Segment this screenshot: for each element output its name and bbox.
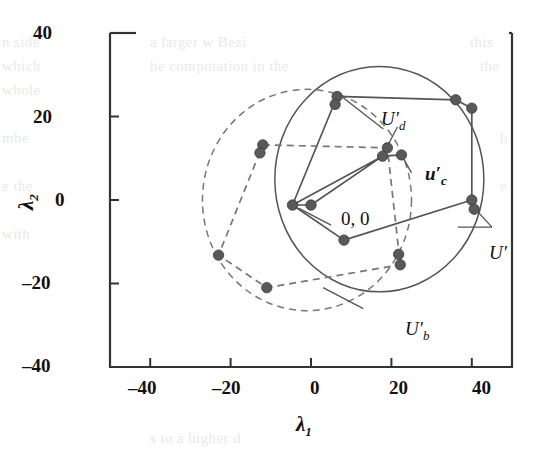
label-uc-sub: c [441, 173, 447, 188]
label-Ud-letter: U [381, 108, 395, 129]
x-axis-title: λ1 [296, 412, 312, 440]
y-tick-20: 20 [33, 106, 52, 128]
label-Ud-sub: d [399, 118, 406, 133]
label-U-letter: U [489, 242, 503, 263]
y-axis-title-text: λ [14, 201, 38, 210]
y-tick-neg20: –20 [22, 272, 51, 294]
data-point-16 [213, 250, 223, 260]
x-tick-neg40: –40 [128, 377, 157, 399]
label-uc-letter: u [425, 163, 436, 184]
figure-root: n sidewhichwholembee thewitha larger w B… [0, 0, 547, 461]
data-point-12 [467, 195, 477, 205]
data-point-10 [306, 200, 316, 210]
y-axis-title: λ2 [14, 188, 42, 216]
data-point-15 [395, 260, 405, 270]
y-axis-title-sub: 2 [26, 194, 41, 201]
label-Ub: U′b [405, 318, 429, 344]
data-point-13 [469, 204, 479, 214]
data-point-7 [377, 151, 387, 161]
label-uc: u′c [425, 163, 447, 189]
label-Ub-sub: b [423, 328, 430, 343]
series-2 [293, 155, 402, 205]
data-point-17 [262, 282, 272, 292]
data-point-3 [467, 103, 477, 113]
data-point-8 [396, 150, 406, 160]
label-origin: 0, 0 [341, 208, 370, 230]
x-tick-0: 0 [310, 377, 320, 399]
data-point-9 [287, 200, 297, 210]
y-tick-0: 0 [55, 189, 65, 211]
label-U-prime: ′ [503, 242, 507, 263]
leader-Ub [323, 288, 363, 309]
x-tick-40: 40 [472, 377, 491, 399]
y-tick-40: 40 [33, 22, 52, 44]
data-point-11 [339, 235, 349, 245]
x-tick-neg20: –20 [212, 377, 241, 399]
data-point-2 [451, 95, 461, 105]
y-tick-neg40: –40 [22, 355, 51, 377]
x-tick-20: 20 [389, 377, 408, 399]
data-point-14 [393, 249, 403, 259]
label-Ub-letter: U [405, 318, 419, 339]
data-point-1 [330, 99, 340, 109]
leader-Ud2 [343, 98, 383, 129]
scatter-plot-canvas [0, 0, 547, 461]
leader-origin [299, 208, 331, 225]
label-Ud: U′d [381, 108, 405, 134]
x-axis-title-sub: 1 [305, 424, 312, 439]
label-U: U′ [489, 242, 507, 264]
data-point-5 [255, 148, 265, 158]
x-axis-title-text: λ [296, 412, 305, 436]
